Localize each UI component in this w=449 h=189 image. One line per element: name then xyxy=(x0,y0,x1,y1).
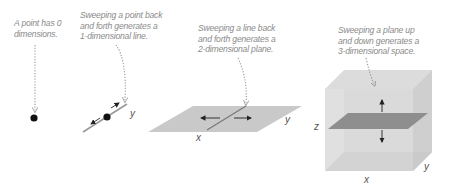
caption-line: A point has 0 xyxy=(14,18,61,29)
axis-label-y-line: y xyxy=(130,108,135,119)
point-dot xyxy=(30,114,37,121)
caption-line: 2-dimensional plane. xyxy=(198,44,276,55)
caption-line: Sweeping a plane up xyxy=(338,25,419,36)
caption-line: and forth generates a xyxy=(80,21,162,32)
dimensions-diagram: A point has 0 dimensions. Sweeping a poi… xyxy=(0,0,449,189)
axis-label-z-space: z xyxy=(314,121,319,132)
caption-line-panel: Sweeping a point back and forth generate… xyxy=(80,10,162,42)
panel-space xyxy=(325,58,432,171)
caption-line: and down generates a xyxy=(338,36,419,47)
axis-label-x-space: x xyxy=(364,174,369,185)
caption-line: dimensions. xyxy=(14,29,61,40)
cube-front xyxy=(325,89,413,171)
panel-plane xyxy=(148,58,302,132)
caption-line: Sweeping a point back xyxy=(80,10,162,21)
caption-plane: Sweeping a line back and forth generates… xyxy=(198,23,276,55)
axis-label-y-space: y xyxy=(424,161,429,172)
caption-line: 3-dimensional space. xyxy=(338,46,419,57)
caption-line: Sweeping a line back xyxy=(198,23,276,34)
caption-space: Sweeping a plane up and down generates a… xyxy=(338,25,419,57)
line-dot xyxy=(103,113,110,120)
arrow-right xyxy=(111,103,119,108)
panel-line xyxy=(83,45,127,132)
axis-label-y-plane: y xyxy=(285,114,290,125)
caption-point: A point has 0 dimensions. xyxy=(14,18,61,39)
panel-point xyxy=(30,45,37,122)
caption-line: 1-dimensional line. xyxy=(80,31,162,42)
axis-label-x-plane: x xyxy=(196,132,201,143)
pointer-dotted-curve xyxy=(116,45,125,100)
pointer-dotted-curve xyxy=(238,58,246,103)
caption-line: and forth generates a xyxy=(198,34,276,45)
